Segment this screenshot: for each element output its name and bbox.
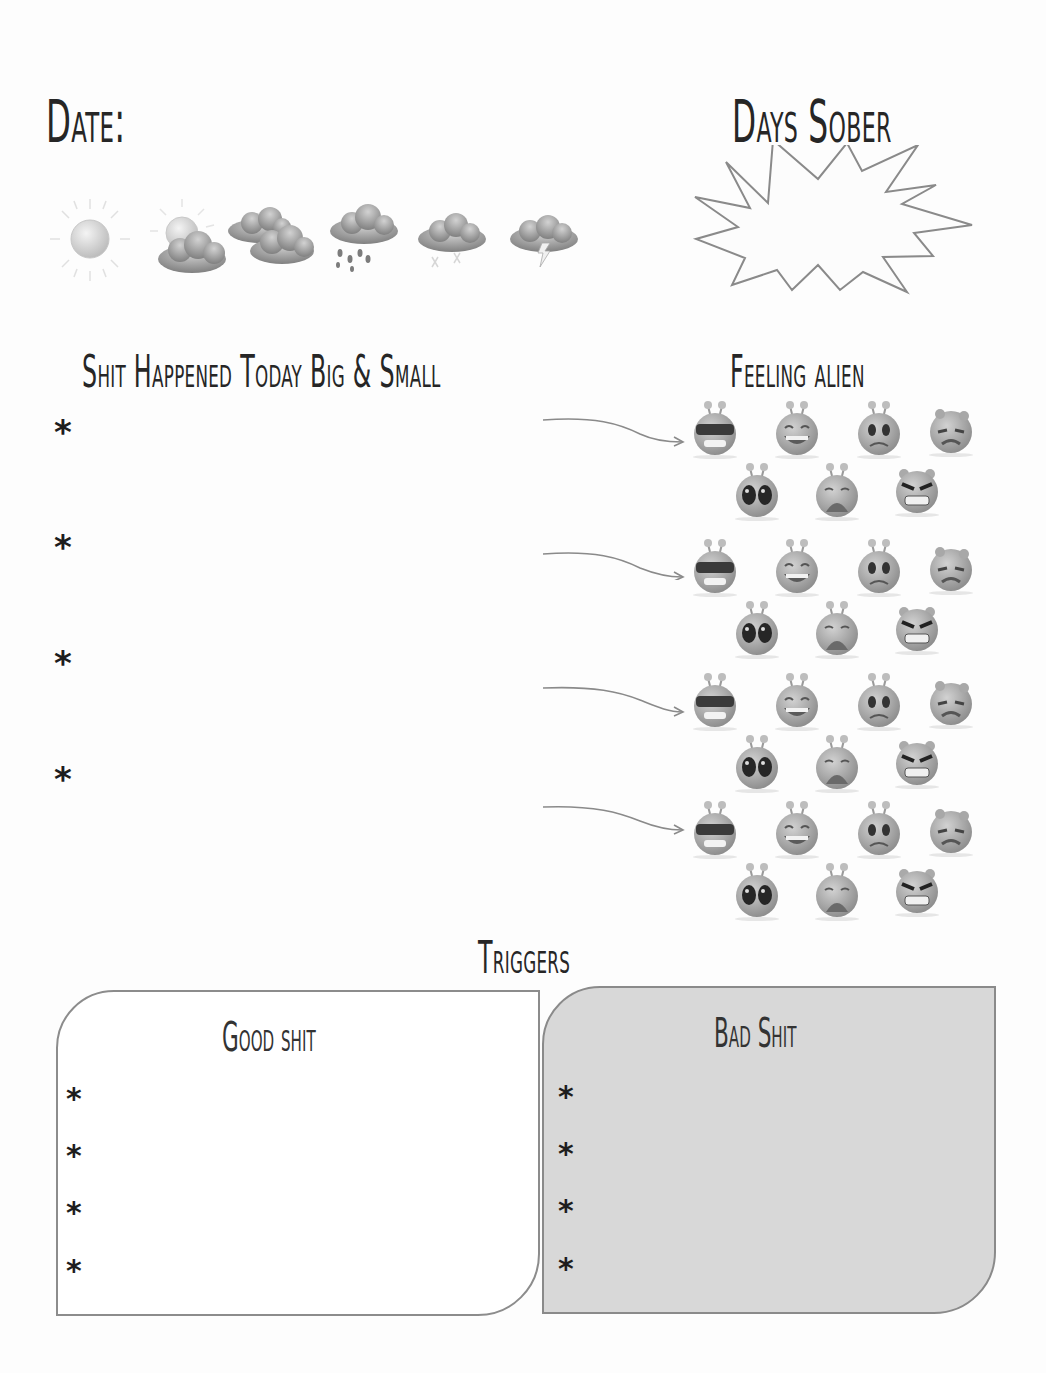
alien-sad-icon bbox=[924, 398, 978, 458]
event-entry-4[interactable]: * bbox=[54, 762, 534, 852]
arrow-right-icon bbox=[540, 540, 690, 580]
bad-trigger-entry-1[interactable]: * bbox=[558, 1082, 978, 1122]
alien-cool-sunglasses-icon bbox=[688, 672, 742, 732]
feelings-heading: Feeling alien bbox=[730, 346, 865, 397]
weather-option-sunny[interactable] bbox=[46, 195, 136, 285]
mood-option-angry[interactable] bbox=[890, 858, 944, 918]
mood-option-crying[interactable] bbox=[810, 462, 864, 522]
triggers-heading: Triggers bbox=[478, 932, 570, 983]
alien-shocked-icon bbox=[730, 600, 784, 660]
mood-picker-3 bbox=[688, 672, 988, 802]
mood-option-laughing[interactable] bbox=[770, 800, 824, 860]
mood-option-laughing[interactable] bbox=[770, 672, 824, 732]
bullet-asterisk-icon: * bbox=[54, 415, 72, 449]
mood-option-crying[interactable] bbox=[810, 600, 864, 660]
mood-option-sad[interactable] bbox=[924, 670, 978, 730]
mood-option-angry[interactable] bbox=[890, 730, 944, 790]
bullet-asterisk-icon: * bbox=[54, 646, 72, 680]
alien-worried-icon bbox=[852, 400, 906, 460]
bullet-asterisk-icon: * bbox=[54, 762, 72, 796]
arrow-right-icon bbox=[540, 408, 690, 448]
bad-trigger-entry-4[interactable]: * bbox=[558, 1254, 978, 1294]
alien-worried-icon bbox=[852, 800, 906, 860]
mood-option-angry[interactable] bbox=[890, 596, 944, 656]
alien-shocked-icon bbox=[730, 862, 784, 922]
good-trigger-entry-1[interactable]: * bbox=[66, 1084, 526, 1124]
alien-cool-sunglasses-icon bbox=[688, 800, 742, 860]
good-trigger-entry-2[interactable]: * bbox=[66, 1141, 526, 1181]
mood-picker-1 bbox=[688, 400, 988, 530]
weather-option-thunderstorm[interactable] bbox=[498, 195, 588, 285]
mood-option-cool[interactable] bbox=[688, 538, 742, 598]
event-entry-1[interactable]: * bbox=[54, 415, 534, 505]
bullet-asterisk-icon: * bbox=[558, 1254, 574, 1284]
rain-icon bbox=[324, 195, 414, 285]
alien-laughing-icon bbox=[770, 800, 824, 860]
bullet-asterisk-icon: * bbox=[66, 1141, 82, 1171]
weather-option-snow[interactable] bbox=[408, 195, 498, 285]
bullet-asterisk-icon: * bbox=[66, 1084, 82, 1114]
event-entry-2[interactable]: * bbox=[54, 530, 534, 620]
days-sober-starburst-field[interactable] bbox=[690, 145, 980, 300]
mood-option-laughing[interactable] bbox=[770, 538, 824, 598]
alien-laughing-icon bbox=[770, 400, 824, 460]
bullet-asterisk-icon: * bbox=[558, 1139, 574, 1169]
mood-option-sad[interactable] bbox=[924, 798, 978, 858]
mood-option-worried[interactable] bbox=[852, 672, 906, 732]
weather-option-partly-cloudy[interactable] bbox=[142, 195, 232, 285]
mood-option-angry[interactable] bbox=[890, 458, 944, 518]
alien-cool-sunglasses-icon bbox=[688, 400, 742, 460]
mood-picker-2 bbox=[688, 538, 988, 668]
alien-angry-icon bbox=[890, 458, 944, 518]
mood-option-shocked[interactable] bbox=[730, 600, 784, 660]
date-label: Date: bbox=[46, 88, 125, 156]
alien-crying-icon bbox=[810, 734, 864, 794]
mood-option-crying[interactable] bbox=[810, 734, 864, 794]
mood-option-sad[interactable] bbox=[924, 398, 978, 458]
starburst-shape-icon bbox=[690, 145, 980, 300]
mood-option-cool[interactable] bbox=[688, 672, 742, 732]
good-trigger-entry-3[interactable]: * bbox=[66, 1198, 526, 1238]
alien-sad-icon bbox=[924, 670, 978, 730]
mood-option-sad[interactable] bbox=[924, 536, 978, 596]
mood-option-worried[interactable] bbox=[852, 800, 906, 860]
bullet-asterisk-icon: * bbox=[558, 1082, 574, 1112]
mood-picker-4 bbox=[688, 800, 988, 930]
alien-laughing-icon bbox=[770, 672, 824, 732]
alien-angry-icon bbox=[890, 596, 944, 656]
bullet-asterisk-icon: * bbox=[66, 1198, 82, 1228]
weather-option-cloudy[interactable] bbox=[222, 195, 322, 285]
bad-trigger-entry-3[interactable]: * bbox=[558, 1196, 978, 1236]
mood-option-laughing[interactable] bbox=[770, 400, 824, 460]
bad-triggers-title: Bad Shit bbox=[714, 1010, 796, 1056]
good-trigger-entry-4[interactable]: * bbox=[66, 1256, 526, 1296]
mood-option-crying[interactable] bbox=[810, 862, 864, 922]
alien-laughing-icon bbox=[770, 538, 824, 598]
alien-crying-icon bbox=[810, 862, 864, 922]
alien-crying-icon bbox=[810, 600, 864, 660]
thunderstorm-icon bbox=[498, 195, 588, 285]
event-entry-3[interactable]: * bbox=[54, 646, 534, 736]
mood-option-cool[interactable] bbox=[688, 400, 742, 460]
mood-option-shocked[interactable] bbox=[730, 734, 784, 794]
mood-option-worried[interactable] bbox=[852, 538, 906, 598]
mood-option-cool[interactable] bbox=[688, 800, 742, 860]
alien-shocked-icon bbox=[730, 462, 784, 522]
bad-trigger-entry-2[interactable]: * bbox=[558, 1139, 978, 1179]
good-triggers-box: Good shit * * * * bbox=[56, 990, 540, 1316]
snow-icon bbox=[408, 195, 498, 285]
mood-option-worried[interactable] bbox=[852, 400, 906, 460]
alien-angry-icon bbox=[890, 858, 944, 918]
alien-worried-icon bbox=[852, 672, 906, 732]
good-triggers-title: Good shit bbox=[222, 1014, 316, 1060]
alien-crying-icon bbox=[810, 462, 864, 522]
sun-icon bbox=[46, 195, 136, 285]
alien-sad-icon bbox=[924, 798, 978, 858]
alien-worried-icon bbox=[852, 538, 906, 598]
weather-option-rain[interactable] bbox=[324, 195, 414, 285]
events-heading: Shit Happened Today Big & Small bbox=[82, 346, 441, 397]
alien-sad-icon bbox=[924, 536, 978, 596]
weather-selector bbox=[46, 195, 586, 285]
mood-option-shocked[interactable] bbox=[730, 862, 784, 922]
mood-option-shocked[interactable] bbox=[730, 462, 784, 522]
